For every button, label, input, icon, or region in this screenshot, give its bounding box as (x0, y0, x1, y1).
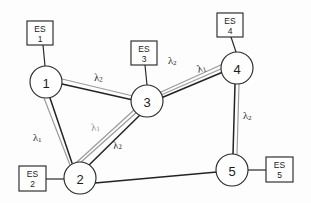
wavelength-subscript: 1 (38, 136, 42, 144)
es-3-label-top: ES (138, 44, 150, 54)
es-4-label-top: ES (224, 16, 236, 26)
network-diagram-svg: ES 1 ES 2 ES 3 ES 4 ES 5 (0, 0, 311, 203)
es3-connector (145, 65, 147, 85)
es-5-label-top: ES (274, 160, 286, 170)
wavelength-subscript: 2 (248, 114, 252, 122)
link-node1-node2-gray (44, 98, 70, 165)
wavelength-label-link-4-5: λ2 (243, 110, 252, 123)
link-node1-node3-dark (62, 84, 133, 100)
link-node2-node5[interactable] (95, 172, 217, 183)
link-node2-node5-dark (95, 172, 217, 183)
wavelength-label-link-2-3-b: λ2 (112, 138, 123, 152)
es-2-label-top: ES (27, 169, 39, 179)
wavelength-subscript: 2 (173, 59, 177, 67)
wavelength-subscript: 1 (96, 125, 101, 133)
node-4[interactable]: 4 (221, 52, 253, 84)
link-node4-node5[interactable] (233, 84, 239, 154)
link-node3-node4[interactable] (161, 64, 223, 98)
wavelength-label-link-1-3: λ2 (94, 71, 104, 84)
node-3-label: 3 (143, 95, 150, 110)
node-1-label: 1 (42, 76, 49, 91)
link-node3-node4-gray-b (161, 68, 223, 95)
network-diagram-canvas: ES 1 ES 2 ES 3 ES 4 ES 5 (0, 0, 311, 203)
wavelength-subscript: 2 (99, 76, 103, 84)
link-node3-node4-gray-a (161, 64, 223, 92)
link-node1-node2[interactable] (44, 98, 72, 165)
es-3-label-bottom: 3 (142, 54, 147, 64)
link-node3-node4-dark (161, 72, 223, 98)
es-5-label-bottom: 5 (277, 170, 282, 180)
es4-connector (231, 37, 236, 52)
link-node2-node3-gray-b (80, 112, 137, 163)
node-3[interactable]: 3 (131, 85, 163, 117)
es1-connector (43, 45, 45, 66)
end-system-es-2[interactable]: ES 2 (19, 166, 46, 191)
wavelength-label-link-3-4-a: λ2 (168, 55, 177, 68)
end-system-es-4[interactable]: ES 4 (217, 13, 243, 37)
link-node2-node3-gray-a (77, 110, 134, 162)
end-system-es-1[interactable]: ES 1 (27, 21, 53, 45)
node-1[interactable]: 1 (30, 66, 62, 98)
es-1-label-bottom: 1 (38, 34, 43, 44)
node-4-label: 4 (233, 62, 240, 77)
end-system-es-3[interactable]: ES 3 (131, 41, 157, 65)
node-5-label: 5 (228, 164, 235, 179)
end-system-es-5[interactable]: ES 5 (266, 157, 293, 182)
node-2-label: 2 (76, 172, 83, 187)
link-node4-node5-dark (233, 84, 235, 154)
link-node4-node5-gray (237, 84, 239, 154)
wavelength-label-link-2-3-a: λ1 (90, 120, 101, 134)
link-node1-node2-dark (50, 98, 72, 163)
node-2[interactable]: 2 (64, 162, 96, 194)
node-5[interactable]: 5 (216, 154, 248, 186)
es-1-label-top: ES (34, 24, 46, 34)
es-2-label-bottom: 2 (30, 179, 35, 189)
wavelength-label-link-1-2: λ1 (33, 132, 42, 145)
wavelength-subscript: 2 (118, 143, 123, 151)
link-node2-node3[interactable] (77, 110, 140, 166)
es-4-label-bottom: 4 (228, 26, 233, 36)
